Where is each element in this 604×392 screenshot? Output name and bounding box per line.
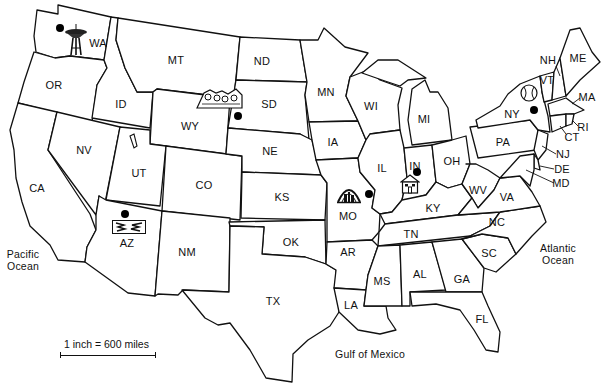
- state-label-wa: WA: [89, 38, 107, 49]
- scale-label: 1 inch = 600 miles: [64, 338, 149, 350]
- state-label-il: IL: [377, 163, 387, 174]
- state-label-ky: KY: [425, 203, 440, 214]
- atlantic-ocean-label: Atlantic Ocean: [540, 242, 576, 266]
- state-label-mt: MT: [168, 55, 184, 66]
- state-label-fl: FL: [475, 314, 488, 325]
- landmark-dot-ny[interactable]: [530, 106, 538, 114]
- lincoln-home-icon: [400, 174, 420, 194]
- state-label-al: AL: [413, 269, 427, 280]
- state-label-tx: TX: [266, 296, 280, 307]
- state-label-ok: OK: [283, 237, 299, 248]
- state-nd[interactable]: [236, 37, 307, 82]
- state-label-ct: CT: [564, 132, 579, 143]
- state-label-ne: NE: [262, 146, 278, 157]
- state-label-tn: TN: [403, 229, 418, 240]
- state-label-sd: SD: [261, 99, 277, 110]
- gateway-arch-icon: [336, 182, 362, 204]
- scale-bar: [60, 352, 156, 358]
- state-label-nm: NM: [178, 247, 196, 258]
- state-ri[interactable]: [566, 114, 574, 126]
- state-label-nh: NH: [540, 55, 556, 66]
- landmark-dot-az[interactable]: [121, 210, 129, 218]
- state-label-ny: NY: [504, 109, 520, 120]
- state-label-wy: WY: [181, 121, 199, 132]
- us-map: WAORIDMTWYNDSDNEMNWIMIIAILINOHPANYNVUTCO…: [0, 0, 604, 392]
- landmark-dot-wa[interactable]: [56, 24, 64, 32]
- pacific-line1: Pacific: [7, 248, 39, 260]
- state-label-id: ID: [115, 99, 126, 110]
- state-label-va: VA: [500, 192, 514, 203]
- state-label-oh: OH: [444, 156, 461, 167]
- state-label-wi: WI: [364, 101, 378, 112]
- landmark-dot-sd[interactable]: [234, 112, 242, 120]
- grand-canyon-icon: [112, 220, 146, 234]
- state-label-wv: WV: [469, 185, 487, 196]
- state-label-pa: PA: [496, 137, 510, 148]
- pacific-ocean-label: Pacific Ocean: [7, 248, 39, 272]
- state-label-ms: MS: [374, 276, 391, 287]
- state-label-me: ME: [570, 53, 587, 64]
- state-label-nc: NC: [489, 217, 505, 228]
- leader-de: [540, 166, 554, 169]
- state-label-ut: UT: [131, 168, 146, 179]
- state-label-sc: SC: [481, 248, 497, 259]
- state-label-ga: GA: [454, 274, 470, 285]
- state-label-ar: AR: [340, 247, 356, 258]
- atlantic-line2: Ocean: [540, 254, 576, 266]
- state-label-ia: IA: [328, 137, 339, 148]
- state-ct[interactable]: [550, 114, 566, 132]
- atlantic-line1: Atlantic: [540, 242, 576, 254]
- baseball-icon: [520, 84, 538, 102]
- state-label-de: DE: [554, 164, 570, 175]
- state-label-vt: VT: [540, 75, 554, 86]
- state-label-nv: NV: [76, 145, 92, 156]
- state-label-mi: MI: [418, 114, 431, 125]
- state-label-nj: NJ: [556, 149, 570, 160]
- state-label-md: MD: [552, 178, 570, 189]
- landmark-dot-mo[interactable]: [365, 190, 373, 198]
- state-label-co: CO: [196, 180, 213, 191]
- mount-rushmore-icon: [196, 87, 244, 109]
- state-label-mn: MN: [317, 87, 335, 98]
- state-label-la: LA: [344, 300, 358, 311]
- state-label-or: OR: [46, 80, 63, 91]
- state-label-nd: ND: [254, 56, 270, 67]
- state-label-mo: MO: [339, 211, 357, 222]
- state-label-ca: CA: [29, 183, 45, 194]
- state-label-ma: MA: [579, 92, 596, 103]
- state-label-ks: KS: [274, 192, 289, 203]
- state-label-az: AZ: [120, 238, 134, 249]
- pacific-line2: Ocean: [7, 260, 39, 272]
- space-needle-icon: [64, 24, 88, 56]
- gulf-of-mexico-label: Gulf of Mexico: [335, 348, 405, 360]
